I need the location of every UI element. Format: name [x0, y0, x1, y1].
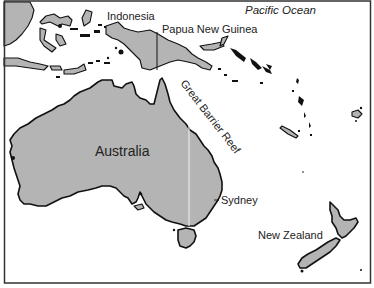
moluccas-islands — [82, 10, 92, 26]
sulawesi-landmass — [40, 14, 72, 52]
vanuatu-islands — [296, 78, 311, 128]
label-new-zealand: New Zealand — [258, 230, 323, 241]
new-ireland-island — [220, 36, 228, 46]
new-caledonia-island — [280, 126, 298, 138]
nz-north-island[interactable] — [330, 202, 358, 238]
label-sydney: Sydney — [221, 195, 258, 206]
label-pacific-ocean: Pacific Ocean — [245, 5, 316, 17]
map-canvas — [0, 0, 374, 288]
fiji-islands — [352, 110, 362, 118]
java-island — [4, 58, 48, 70]
solomon-islands — [230, 48, 272, 74]
kangaroo-island — [134, 204, 144, 210]
label-australia: Australia — [95, 144, 149, 158]
label-papua-new-guinea: Papua New Guinea — [162, 24, 257, 35]
label-indonesia: Indonesia — [107, 11, 155, 22]
borneo-landmass — [4, 2, 34, 46]
nz-south-island[interactable] — [298, 238, 340, 268]
lesser-sunda-islands — [50, 64, 86, 74]
tasmania-landmass[interactable] — [178, 228, 196, 248]
